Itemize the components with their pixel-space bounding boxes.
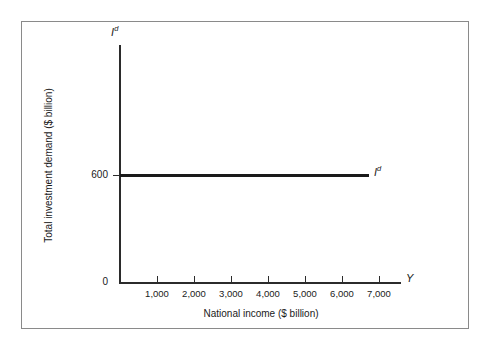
y-tick-label-600: 600 <box>78 169 108 180</box>
y-axis-symbol: Id <box>111 26 119 38</box>
x-tick-mark-1000 <box>157 276 158 283</box>
x-tick-mark-6000 <box>342 276 343 283</box>
x-axis-title: National income ($ billion) <box>120 308 402 319</box>
x-tick-label-1000: 1,000 <box>137 288 177 299</box>
y-axis-line <box>119 45 121 284</box>
x-tick-label-3000: 3,000 <box>211 288 251 299</box>
x-tick-mark-4000 <box>268 276 269 283</box>
investment-demand-line <box>120 174 369 177</box>
x-tick-label-2000: 2,000 <box>174 288 214 299</box>
x-tick-label-5000: 5,000 <box>285 288 325 299</box>
x-tick-mark-7000 <box>379 276 380 283</box>
x-tick-mark-2000 <box>194 276 195 283</box>
x-tick-mark-3000 <box>231 276 232 283</box>
x-tick-label-7000: 7,000 <box>359 288 399 299</box>
x-axis-symbol: Y <box>406 272 414 284</box>
x-tick-mark-5000 <box>305 276 306 283</box>
y-tick-mark-600 <box>113 175 120 176</box>
plot-area: Id Y 1,000 2,000 3,000 4,000 5,000 6,000… <box>0 0 484 348</box>
y-axis-title: Total investment demand ($ billion) <box>43 66 54 266</box>
y-tick-label-0: 0 <box>78 276 108 287</box>
x-tick-label-6000: 6,000 <box>322 288 362 299</box>
x-tick-label-4000: 4,000 <box>248 288 288 299</box>
series-label-superscript: d <box>377 164 381 173</box>
investment-demand-line-label: Id <box>374 166 381 178</box>
x-axis-line <box>119 282 401 284</box>
y-axis-symbol-superscript: d <box>114 24 118 33</box>
investment-demand-figure: Id Y 1,000 2,000 3,000 4,000 5,000 6,000… <box>0 0 484 348</box>
